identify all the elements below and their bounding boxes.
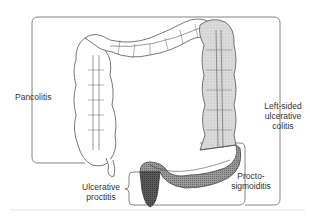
appendix xyxy=(106,158,115,177)
left-sided-colitis-label: Left-sided ulcerative colitis xyxy=(258,101,308,131)
proctitis-line-2: proctitis xyxy=(76,192,126,202)
pancolitis-text: Pancolitis xyxy=(15,92,51,102)
proctosigmoiditis-line-1: Procto- xyxy=(220,171,282,181)
left-sided-line-3: colitis xyxy=(258,121,308,131)
left-sided-line-1: Left-sided xyxy=(258,101,308,111)
ascending-colon xyxy=(74,38,116,166)
colitis-diagram: Pancolitis Left-sided ulcerative colitis… xyxy=(0,0,310,217)
rectum xyxy=(140,172,160,207)
ulcerative-proctitis-label: Ulcerative proctitis xyxy=(76,182,126,202)
pancolitis-label: Pancolitis xyxy=(15,92,51,102)
proctosigmoiditis-line-2: sigmoiditis xyxy=(220,181,282,191)
left-sided-line-2: ulcerative xyxy=(258,111,308,121)
proctitis-line-1: Ulcerative xyxy=(76,182,126,192)
proctosigmoiditis-label: Procto- sigmoiditis xyxy=(220,171,282,191)
